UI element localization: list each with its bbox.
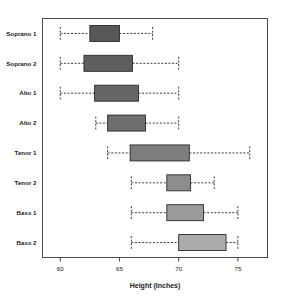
category-labels: Soprano 1Soprano 2Alto 1Alto 2Tenor 1Ten… <box>6 30 37 246</box>
category-label: Alto 1 <box>19 89 37 96</box>
box-iqr <box>130 145 189 161</box>
x-axis-tick-labels: 60657075 <box>57 265 242 272</box>
box-plot-item <box>60 55 178 71</box>
box-plot-item <box>108 145 250 161</box>
category-label: Tenor 2 <box>15 179 37 186</box>
plot-frame <box>43 19 268 258</box>
category-label: Bass 1 <box>17 209 38 216</box>
box-plot-item <box>60 25 152 41</box>
category-label: Tenor 1 <box>15 149 37 156</box>
box-iqr <box>108 115 146 131</box>
x-tick-label: 60 <box>57 265 64 272</box>
category-label: Soprano 1 <box>6 30 37 37</box>
box-plot-item <box>131 175 214 191</box>
plot-area: 60657075 Soprano 1Soprano 2Alto 1Alto 2T… <box>0 0 288 297</box>
box-iqr <box>179 235 226 251</box>
box-iqr <box>84 55 133 71</box>
box-plot-item <box>96 115 179 131</box>
box-series <box>60 25 249 250</box>
boxplot-chart: 60657075 Soprano 1Soprano 2Alto 1Alto 2T… <box>0 0 288 297</box>
box-iqr <box>90 25 120 41</box>
category-label: Soprano 2 <box>6 60 37 67</box>
box-plot-item <box>60 85 178 101</box>
category-label: Bass 2 <box>17 239 38 246</box>
box-iqr <box>167 205 204 221</box>
box-plot-item <box>131 235 238 251</box>
box-iqr <box>167 175 191 191</box>
x-tick-label: 75 <box>234 265 241 272</box>
box-iqr <box>95 85 139 101</box>
x-tick-label: 70 <box>175 265 182 272</box>
category-label: Alto 2 <box>19 119 37 126</box>
x-axis-title: Height (Inches) <box>130 282 181 290</box>
x-tick-label: 65 <box>116 265 123 272</box>
box-plot-item <box>131 205 238 221</box>
x-axis-tick-marks <box>60 258 238 262</box>
